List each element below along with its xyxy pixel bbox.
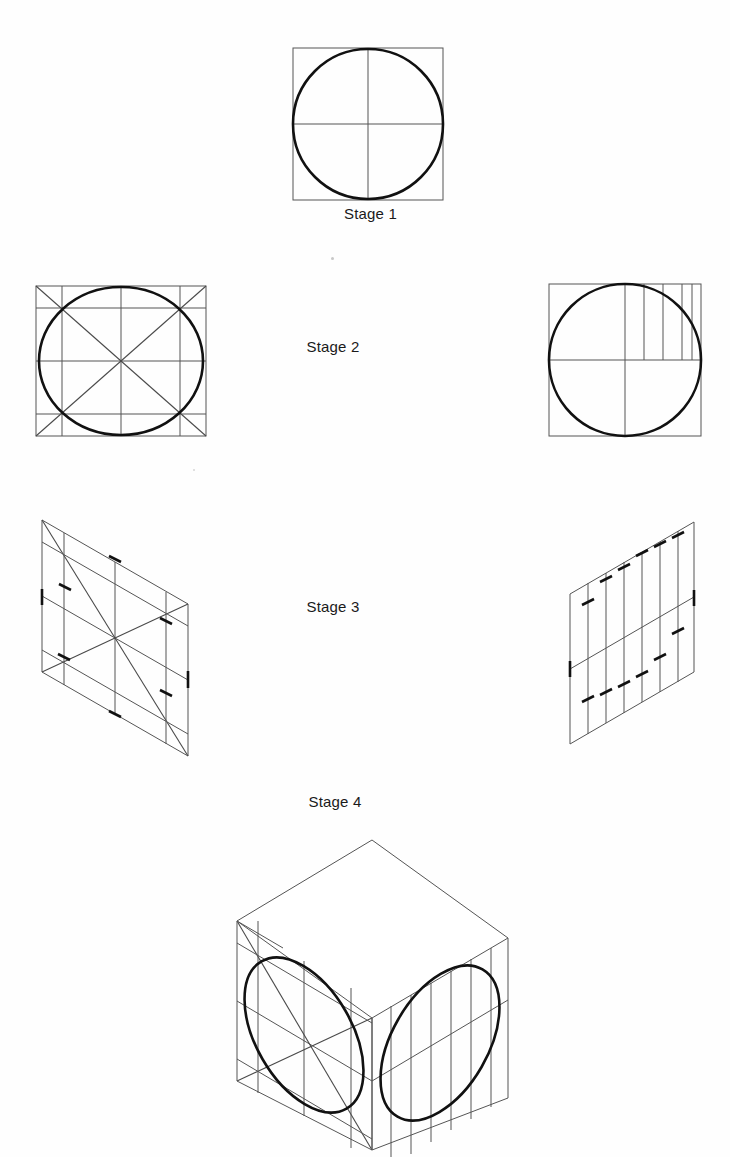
stage-3-right-figure <box>548 512 728 762</box>
stage-1-svg <box>283 38 458 218</box>
stage-2-left-svg <box>26 276 226 456</box>
drawing-page: Stage 1 <box>0 0 730 1157</box>
stage-4-right-face-centre-line <box>372 1000 508 1081</box>
stage-3-left-figure <box>28 508 218 768</box>
stage-4-figure <box>225 828 525 1157</box>
stage-2-right-figure <box>539 274 729 454</box>
stage-3-right-svg <box>548 512 728 762</box>
scan-speck-2 <box>193 469 195 471</box>
stage-3-left-svg <box>28 508 218 768</box>
stage-3-left-tick-1 <box>59 584 71 590</box>
stage-4-svg <box>225 828 525 1157</box>
stage-4-top-face <box>237 840 508 1018</box>
stage-2-right-svg <box>539 274 729 454</box>
stage-2-left-figure <box>26 276 226 456</box>
stage-4-label: Stage 4 <box>250 793 420 810</box>
stage-1-figure <box>283 38 458 218</box>
stage-2-label: Stage 2 <box>248 338 418 355</box>
stage-3-left-tick-5 <box>109 556 121 562</box>
scan-speck-1 <box>331 257 334 260</box>
stage-1-label: Stage 1 <box>283 205 458 222</box>
stage-4-bottom-right-edge <box>372 1098 508 1150</box>
stage-3-label: Stage 3 <box>248 598 418 615</box>
